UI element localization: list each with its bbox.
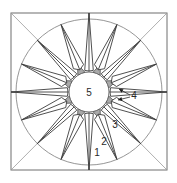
label-piece-3: 3 [112, 119, 118, 130]
label-piece-1: 1 [94, 147, 100, 158]
label-hub-5: 5 [86, 87, 92, 98]
label-piece-2: 2 [101, 136, 107, 147]
label-piece-4: 4 [131, 90, 137, 101]
mariners-compass-diagram: 5 4 3 2 1 [0, 0, 177, 183]
